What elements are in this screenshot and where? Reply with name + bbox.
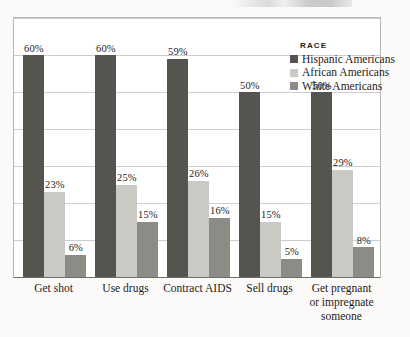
- bar: 59%: [167, 59, 188, 277]
- bar: 29%: [332, 170, 353, 277]
- bar-value-label: 8%: [357, 236, 371, 247]
- legend-swatch-icon: [290, 69, 298, 77]
- legend-label: Hispanic Americans: [302, 53, 395, 65]
- bar: 60%: [95, 55, 116, 277]
- legend-swatch-icon: [290, 82, 298, 90]
- x-axis-label-line: someone: [296, 309, 387, 323]
- legend-swatch-icon: [290, 55, 298, 63]
- bar: 16%: [209, 218, 230, 277]
- legend-label: African Americans: [302, 66, 389, 78]
- legend-item-hispanic-americans: Hispanic Americans: [290, 53, 394, 65]
- bar: 23%: [44, 192, 65, 277]
- legend-label: White Americans: [302, 80, 382, 92]
- x-axis-labels: Get shotUse drugsContract AIDSSell drugs…: [13, 281, 381, 337]
- x-axis-label-line: or impregnate: [296, 295, 387, 309]
- bar-value-label: 29%: [333, 158, 353, 169]
- x-axis-label-line: Get pregnant: [296, 281, 387, 295]
- bar: 26%: [188, 181, 209, 277]
- bar: 6%: [65, 255, 86, 277]
- bar-group: 59%26%16%: [167, 18, 230, 277]
- bar: 60%: [23, 55, 44, 277]
- cropped-headline-fragment: [232, 0, 352, 7]
- legend-rows: Hispanic AmericansAfrican AmericansWhite…: [290, 53, 394, 92]
- bar-value-label: 60%: [24, 44, 44, 55]
- bar-value-label: 59%: [168, 47, 188, 58]
- bar-group: 60%25%15%: [95, 18, 158, 277]
- legend-item-african-americans: African Americans: [290, 66, 394, 78]
- bar-value-label: 15%: [138, 210, 158, 221]
- legend-item-white-americans: White Americans: [290, 80, 394, 92]
- bar-value-label: 5%: [285, 247, 299, 258]
- bar: 5%: [281, 259, 302, 278]
- bar: 15%: [260, 222, 281, 278]
- bar: 50%: [311, 92, 332, 277]
- bar-value-label: 50%: [240, 81, 260, 92]
- bar-value-label: 23%: [45, 180, 65, 191]
- legend-title: RACE: [300, 42, 394, 50]
- bar: 8%: [353, 247, 374, 277]
- bar-value-label: 60%: [96, 44, 116, 55]
- bar-value-label: 26%: [189, 169, 209, 180]
- bar: 50%: [239, 92, 260, 277]
- bar-value-label: 6%: [69, 243, 83, 254]
- chart-plot-frame: 60%23%6%60%25%15%59%26%16%50%15%5%50%29%…: [13, 17, 381, 278]
- bar: 15%: [137, 222, 158, 278]
- x-axis-label: Get pregnantor impregnatesomeone: [296, 281, 387, 323]
- bar: 25%: [116, 185, 137, 278]
- bar-value-label: 16%: [210, 206, 230, 217]
- bar-value-label: 15%: [261, 210, 281, 221]
- bar-value-label: 25%: [117, 173, 137, 184]
- bar-group: 60%23%6%: [23, 18, 86, 277]
- chart-legend: RACE Hispanic AmericansAfrican Americans…: [290, 42, 394, 93]
